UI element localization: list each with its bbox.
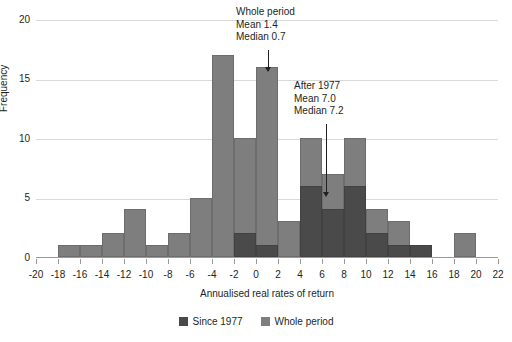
x-tick--6 [190, 259, 191, 264]
y-tick-label-0: 0 [0, 253, 30, 263]
x-tick-4 [300, 259, 301, 264]
x-tick-0 [256, 259, 257, 264]
x-tick--20 [36, 259, 37, 264]
y-tick-label-5: 5 [0, 193, 30, 203]
chart-legend: Since 1977 Whole period [0, 316, 512, 327]
legend-swatch-whole-period [261, 317, 270, 326]
annotation-after-1977-line-3: Median 7.2 [294, 105, 343, 118]
x-tick-16 [432, 259, 433, 264]
annotation-whole-period-line-2: Mean 1.4 [236, 19, 295, 32]
x-tick-14 [410, 259, 411, 264]
y-tick-label-15: 15 [0, 74, 30, 84]
y-axis-title: Frequency [0, 65, 9, 112]
x-tick--18 [58, 259, 59, 264]
annotation-whole-period-line-3: Median 0.7 [236, 31, 295, 44]
x-tick--16 [80, 259, 81, 264]
x-tick-18 [454, 259, 455, 264]
x-tick--14 [102, 259, 103, 264]
x-tick--10 [146, 259, 147, 264]
histogram-chart: Frequency 20 15 10 5 0 -20-18-16-14-12-1… [0, 0, 512, 342]
annotation-after-1977: After 1977 Mean 7.0 Median 7.2 [294, 80, 343, 118]
annotation-whole-period-line-1: Whole period [236, 6, 295, 19]
x-tick--12 [124, 259, 125, 264]
annotation-after-1977-arrowhead [323, 192, 329, 197]
legend-swatch-since-1977 [179, 317, 188, 326]
annotation-after-1977-leader [326, 124, 327, 193]
annotation-whole-period-leader [268, 50, 269, 68]
x-tick--2 [234, 259, 235, 264]
legend-label-since-1977: Since 1977 [193, 316, 243, 327]
x-tick-22 [498, 259, 499, 264]
legend-label-whole-period: Whole period [275, 316, 334, 327]
y-tick-label-20: 20 [0, 15, 30, 25]
annotation-whole-period-arrowhead [265, 67, 271, 72]
annotation-after-1977-line-1: After 1977 [294, 80, 343, 93]
legend-item-whole-period[interactable]: Whole period [261, 316, 334, 327]
x-tick-label-22: 22 [483, 270, 512, 280]
x-tick-2 [278, 259, 279, 264]
plot-area: -20-18-16-14-12-10-8-6-4-202468101214161… [36, 20, 498, 258]
annotation-after-1977-line-2: Mean 7.0 [294, 93, 343, 106]
y-tick-label-10: 10 [0, 134, 30, 144]
x-tick-20 [476, 259, 477, 264]
legend-item-since-1977[interactable]: Since 1977 [179, 316, 243, 327]
x-axis-ticks: -20-18-16-14-12-10-8-6-4-202468101214161… [36, 20, 498, 258]
x-tick-10 [366, 259, 367, 264]
x-tick-6 [322, 259, 323, 264]
x-axis-title: Annualised real rates of return [36, 288, 498, 299]
x-tick--8 [168, 259, 169, 264]
x-tick--4 [212, 259, 213, 264]
x-tick-8 [344, 259, 345, 264]
annotation-whole-period: Whole period Mean 1.4 Median 0.7 [236, 6, 295, 44]
x-tick-12 [388, 259, 389, 264]
